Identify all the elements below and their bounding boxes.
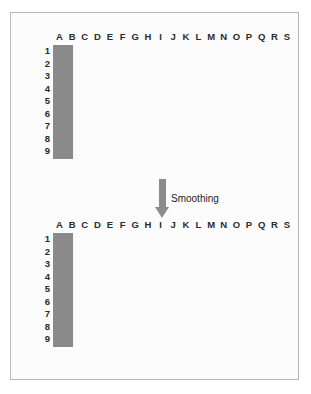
column-header-Q: Q (255, 31, 268, 44)
smoothing-arrow-group: Smoothing (159, 179, 279, 221)
column-header-Q: Q (255, 219, 268, 232)
grid-cell-S6 (72, 296, 73, 309)
grid-row (54, 284, 73, 297)
smoothed-surface-grid (53, 233, 73, 347)
grid-row (54, 271, 73, 284)
bottom-column-headers: ABCDEFGHIJKLMNOPQRS (53, 219, 293, 232)
column-header-R: R (268, 219, 281, 232)
grid-row (54, 246, 73, 259)
grid-cell-S3 (72, 259, 73, 272)
row-header-6: 6 (35, 296, 50, 309)
column-header-I: I (154, 31, 167, 44)
column-header-P: P (243, 31, 256, 44)
grid-cell-S8 (72, 133, 73, 146)
grid-cell-S2 (72, 246, 73, 259)
grid-cell-S5 (72, 284, 73, 297)
column-header-J: J (167, 31, 180, 44)
column-header-O: O (230, 31, 243, 44)
grid-row (54, 46, 73, 59)
grid-row (54, 121, 73, 134)
grid-cell-S7 (72, 309, 73, 322)
row-header-8: 8 (35, 321, 50, 334)
row-header-9: 9 (35, 333, 50, 346)
column-header-K: K (179, 219, 192, 232)
column-header-A: A (53, 219, 66, 232)
column-header-G: G (129, 31, 142, 44)
figure-frame: ABCDEFGHIJKLMNOPQRS 123456789 Smoothing … (10, 12, 299, 380)
grid-row (54, 96, 73, 109)
grid-cell-S1 (72, 234, 73, 247)
column-header-F: F (116, 31, 129, 44)
row-header-9: 9 (35, 145, 50, 158)
column-header-J: J (167, 219, 180, 232)
grid-cell-S2 (72, 58, 73, 71)
column-header-A: A (53, 31, 66, 44)
grid-row (54, 334, 73, 347)
column-header-B: B (66, 31, 79, 44)
row-header-2: 2 (35, 246, 50, 259)
grid-cell-S9 (72, 334, 73, 347)
column-header-S: S (281, 219, 294, 232)
row-header-6: 6 (35, 108, 50, 121)
grid-cell-S6 (72, 108, 73, 121)
down-arrow-icon-shaft (159, 179, 166, 209)
column-header-C: C (78, 31, 91, 44)
row-header-5: 5 (35, 95, 50, 108)
column-header-C: C (78, 219, 91, 232)
column-header-O: O (230, 219, 243, 232)
grid-cell-S4 (72, 83, 73, 96)
column-header-K: K (179, 31, 192, 44)
grid-cell-S8 (72, 321, 73, 334)
row-header-3: 3 (35, 70, 50, 83)
column-header-N: N (217, 31, 230, 44)
row-header-2: 2 (35, 58, 50, 71)
row-header-7: 7 (35, 120, 50, 133)
row-header-4: 4 (35, 83, 50, 96)
bottom-row-headers: 123456789 (35, 233, 50, 346)
column-header-E: E (104, 31, 117, 44)
column-header-N: N (217, 219, 230, 232)
top-column-headers: ABCDEFGHIJKLMNOPQRS (53, 31, 293, 44)
column-header-H: H (141, 31, 154, 44)
row-header-5: 5 (35, 283, 50, 296)
grid-row (54, 259, 73, 272)
grid-cell-S1 (72, 46, 73, 59)
column-header-L: L (192, 219, 205, 232)
column-header-S: S (281, 31, 294, 44)
column-header-D: D (91, 219, 104, 232)
down-arrow-icon-head (155, 207, 169, 218)
column-header-M: M (205, 31, 218, 44)
row-header-8: 8 (35, 133, 50, 146)
column-header-B: B (66, 219, 79, 232)
original-pattern-grid (53, 45, 73, 159)
column-header-H: H (141, 219, 154, 232)
grid-cell-S5 (72, 96, 73, 109)
row-header-4: 4 (35, 271, 50, 284)
column-header-R: R (268, 31, 281, 44)
grid-row (54, 234, 73, 247)
grid-row (54, 133, 73, 146)
grid-cell-S4 (72, 271, 73, 284)
column-header-P: P (243, 219, 256, 232)
column-header-E: E (104, 219, 117, 232)
column-header-F: F (116, 219, 129, 232)
row-header-3: 3 (35, 258, 50, 271)
grid-row (54, 309, 73, 322)
row-header-1: 1 (35, 233, 50, 246)
column-header-G: G (129, 219, 142, 232)
grid-row (54, 83, 73, 96)
smoothing-label: Smoothing (171, 193, 219, 204)
grid-cell-S9 (72, 146, 73, 159)
grid-row (54, 71, 73, 84)
row-header-1: 1 (35, 45, 50, 58)
column-header-I: I (154, 219, 167, 232)
grid-row (54, 321, 73, 334)
grid-cell-S7 (72, 121, 73, 134)
column-header-M: M (205, 219, 218, 232)
top-row-headers: 123456789 (35, 45, 50, 158)
column-header-D: D (91, 31, 104, 44)
row-header-7: 7 (35, 308, 50, 321)
column-header-L: L (192, 31, 205, 44)
grid-row (54, 108, 73, 121)
grid-row (54, 58, 73, 71)
